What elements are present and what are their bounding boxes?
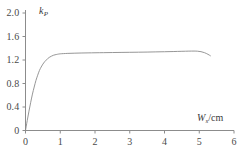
x-tick-label: 4 [155, 137, 175, 147]
data-series-line [26, 51, 211, 130]
y-tick-label: 2.0 [0, 8, 20, 18]
x-tick-label: 1 [50, 137, 70, 147]
x-axis-symbol: W [197, 112, 205, 123]
x-axis-unit: /cm [208, 112, 223, 123]
x-tick-label: 3 [120, 137, 140, 147]
y-axis-title: kP [39, 6, 48, 19]
chart-figure: 00.40.81.21.62.0 0123456 kP Ws/cm [0, 0, 244, 159]
x-axis-title: Ws/cm [197, 113, 223, 126]
x-tick-label: 0 [16, 137, 36, 147]
y-axis-symbol: k [39, 5, 43, 16]
x-tick-label: 5 [189, 137, 209, 147]
y-tick-label: 0 [0, 126, 20, 136]
y-tick-label: 0.8 [0, 79, 20, 89]
y-axis-subscript: P [44, 10, 48, 18]
y-tick-label: 1.6 [0, 32, 20, 42]
x-tick-label: 6 [224, 137, 244, 147]
plot-area [0, 0, 244, 159]
x-tick-label: 2 [85, 137, 105, 147]
y-tick-label: 0.4 [0, 102, 20, 112]
caption-strip [0, 152, 244, 159]
y-tick-label: 1.2 [0, 55, 20, 65]
